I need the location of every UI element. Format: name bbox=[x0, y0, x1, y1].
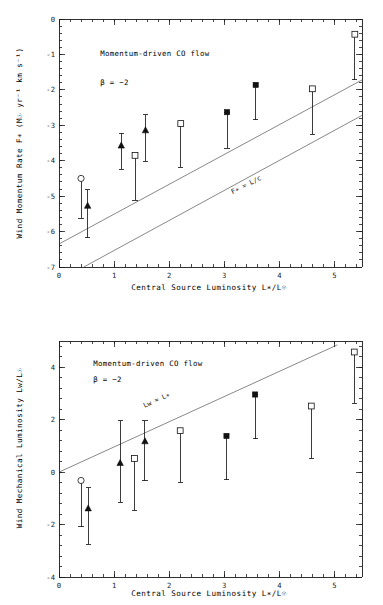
marker-open-circle bbox=[78, 477, 84, 483]
marker-filled-square bbox=[253, 82, 258, 87]
plot-annotation: β = −2 bbox=[93, 375, 122, 384]
marker-filled-triangle bbox=[84, 202, 90, 208]
marker-open-square bbox=[177, 428, 183, 434]
marker-open-square bbox=[310, 86, 316, 92]
data-series-top bbox=[78, 31, 358, 237]
y-tick-label: 0 bbox=[51, 468, 55, 477]
chart-svg-top: 0123450-1-2-3-4-5-6-7 Momentum-driven CO… bbox=[0, 0, 383, 300]
marker-filled-square bbox=[253, 392, 258, 397]
y-tick-label: 0 bbox=[51, 15, 55, 24]
marker-filled-square bbox=[224, 433, 229, 438]
reference-line bbox=[84, 115, 362, 267]
x-tick-label: 3 bbox=[222, 271, 226, 280]
marker-open-square bbox=[352, 31, 358, 37]
x-tick-label: 5 bbox=[332, 271, 336, 280]
x-tick-label: 0 bbox=[57, 581, 61, 590]
x-tick-label: 0 bbox=[57, 271, 61, 280]
marker-open-circle bbox=[78, 175, 84, 181]
y-axis-title-bottom: Wind Mechanical Luminosity Lᴡ/L☉ bbox=[15, 368, 24, 529]
marker-filled-triangle bbox=[142, 438, 148, 444]
marker-open-square bbox=[351, 349, 357, 355]
x-axis-title-bottom: Central Source Luminosity L∗/L☉ bbox=[131, 589, 287, 598]
reference-line bbox=[59, 80, 362, 244]
plot-annotation: Momentum-driven CO flow bbox=[93, 359, 202, 368]
plot-annotation: β = −2 bbox=[100, 78, 128, 87]
y-tick-label: -2 bbox=[46, 85, 55, 94]
marker-filled-triangle bbox=[117, 460, 123, 466]
x-tick-label: 2 bbox=[167, 271, 171, 280]
marker-filled-square bbox=[224, 110, 229, 115]
y-tick-label: -7 bbox=[46, 263, 55, 272]
y-tick-label: -2 bbox=[46, 520, 55, 529]
reference-line-label: F∗ = L/c bbox=[230, 174, 263, 196]
y-tick-label: 4 bbox=[51, 363, 55, 372]
plot-annotation: Momentum-driven CO flow bbox=[100, 49, 209, 58]
x-tick-label: 4 bbox=[277, 271, 281, 280]
x-tick-label: 1 bbox=[112, 581, 116, 590]
chart-svg-bottom: 012345420-2-4 Momentum-driven CO flowβ =… bbox=[0, 300, 383, 605]
y-tick-label: -4 bbox=[46, 573, 55, 582]
marker-open-square bbox=[178, 121, 184, 127]
y-tick-label: -3 bbox=[46, 121, 55, 130]
marker-filled-triangle bbox=[85, 505, 91, 511]
marker-filled-triangle bbox=[118, 142, 124, 148]
x-tick-label: 5 bbox=[332, 581, 336, 590]
chart-panel-bottom: 012345420-2-4 Momentum-driven CO flowβ =… bbox=[0, 300, 383, 605]
y-tick-label: -6 bbox=[46, 227, 55, 236]
reference-lines-top bbox=[59, 80, 362, 267]
x-axis-title-top: Central Source Luminosity L∗/L☉ bbox=[131, 283, 287, 292]
y-tick-label: -1 bbox=[46, 50, 55, 59]
x-tick-label: 1 bbox=[112, 271, 116, 280]
chart-panel-top: 0123450-1-2-3-4-5-6-7 Momentum-driven CO… bbox=[0, 0, 383, 300]
marker-open-square bbox=[132, 153, 138, 159]
tick-labels-bottom: 012345420-2-4 bbox=[46, 363, 336, 590]
reference-line-label: Lᴡ = L∗ bbox=[142, 391, 171, 410]
marker-filled-triangle bbox=[142, 127, 148, 133]
y-tick-label: 2 bbox=[51, 415, 55, 424]
y-tick-label: -5 bbox=[46, 192, 55, 201]
y-tick-label: -4 bbox=[46, 156, 55, 165]
marker-open-square bbox=[308, 403, 314, 409]
figure-root: 0123450-1-2-3-4-5-6-7 Momentum-driven CO… bbox=[0, 0, 383, 605]
annotations-bottom: Momentum-driven CO flowβ = −2Lᴡ = L∗ bbox=[93, 359, 202, 410]
y-axis-title-top: Wind Momentum Rate F∗ (M☉ yr⁻¹ km s⁻¹) bbox=[15, 48, 24, 239]
marker-open-square bbox=[132, 456, 138, 462]
